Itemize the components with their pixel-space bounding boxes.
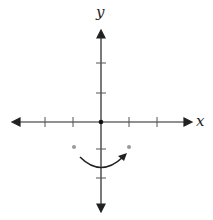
y-axis-down-arrow-icon (97, 204, 105, 212)
point-right (127, 145, 131, 149)
origin-point (99, 120, 104, 125)
y-axis-up-arrow-icon (97, 30, 105, 38)
x-axis-label: x (196, 114, 204, 129)
coordinate-plane (0, 0, 213, 220)
x-axis-right-arrow-icon (184, 118, 192, 126)
y-axis-label: y (96, 5, 104, 20)
rotation-arrow (80, 153, 127, 168)
point-left (72, 145, 76, 149)
x-axis-left-arrow-icon (12, 118, 20, 126)
